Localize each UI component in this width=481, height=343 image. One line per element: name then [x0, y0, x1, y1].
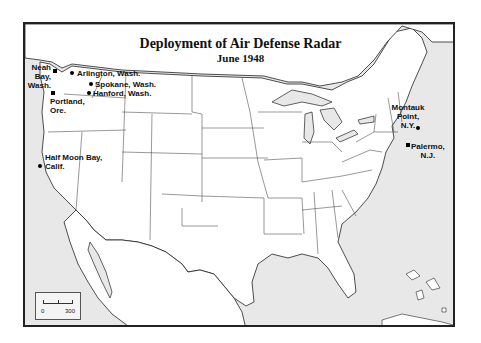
site-label-hanford: Hanford, Wash. — [93, 89, 151, 98]
site-label-spokane: Spokane, Wash. — [95, 80, 156, 89]
label-line: N.J. — [411, 151, 445, 160]
label-line: Calif. — [45, 162, 102, 171]
scale-end-label: 300 — [65, 308, 75, 314]
label-line: Bay, — [27, 72, 51, 81]
label-line: Portland, — [50, 97, 85, 106]
site-marker-arlington — [70, 71, 74, 75]
scale-start-label: 0 — [41, 308, 44, 314]
site-label-palermo: Palermo, N.J. — [411, 142, 445, 160]
map-frame — [23, 22, 455, 327]
scale-bar: 0 300 — [35, 292, 81, 320]
site-label-montauk-point: Montauk Point, N.Y. — [388, 103, 428, 130]
label-line: N.Y. — [388, 121, 428, 130]
label-line: Palermo, — [411, 142, 445, 151]
label-line: Neah — [27, 63, 51, 72]
bahamas-islands — [406, 270, 446, 312]
site-marker-half-moon-bay — [38, 164, 42, 168]
site-label-portland: Portland, Ore. — [50, 97, 85, 115]
scale-tick — [43, 300, 44, 304]
label-line: Ore. — [50, 106, 85, 115]
site-label-arlington: Arlington, Wash. — [77, 69, 140, 78]
label-line: Montauk — [388, 103, 428, 112]
label-line: Wash. — [27, 81, 51, 90]
site-marker-spokane — [89, 82, 93, 86]
cuba-island — [382, 314, 455, 327]
site-marker-neah-bay — [53, 69, 57, 73]
scale-tick — [72, 300, 73, 304]
map-subtitle: June 1948 — [0, 52, 481, 64]
site-marker-hanford — [87, 91, 91, 95]
map-title: Deployment of Air Defense Radar — [0, 36, 481, 52]
scale-tick — [58, 300, 59, 304]
site-marker-portland — [51, 91, 55, 95]
label-line: Half Moon Bay, — [45, 153, 102, 162]
site-label-half-moon-bay: Half Moon Bay, Calif. — [45, 153, 102, 171]
site-label-neah-bay: Neah Bay, Wash. — [27, 63, 51, 90]
label-line: Point, — [388, 112, 428, 121]
site-marker-palermo — [406, 143, 410, 147]
